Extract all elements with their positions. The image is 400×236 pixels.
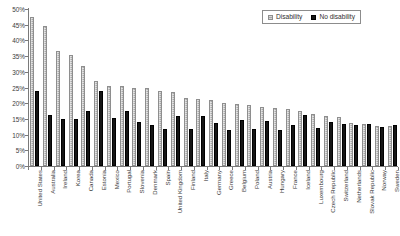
chart-legend: Disability No disability [262,10,361,24]
x-axis-tick-mark [207,167,208,170]
bar-disability [56,51,60,166]
x-axis-label: Norway [381,170,388,191]
bar-no-disability [329,122,333,166]
bar-no-disability [393,125,397,166]
bar-no-disability [163,129,167,166]
bar-disability [171,92,175,166]
x-axis-tick-mark [360,167,361,170]
x-axis-label: Australia [50,170,57,194]
bar-no-disability [380,127,384,166]
bar-no-disability [99,91,103,166]
bar-group [131,9,144,166]
legend-swatch-solid-icon [311,15,316,20]
x-axis-label: Netherlands [356,170,363,203]
x-axis-tick-mark [283,167,284,170]
bar-no-disability [367,124,371,166]
bar-no-disability [214,123,218,166]
x-axis-tick-mark [245,167,246,170]
bar-no-disability [189,129,193,166]
bar-series-group [28,9,398,166]
bar-disability [158,91,162,166]
x-axis-label: Czech Republic [330,170,337,213]
bar-disability [132,88,136,167]
x-axis-label: Iceland [305,170,312,190]
x-axis-tick-mark [181,167,182,170]
bar-group [272,9,285,166]
bar-disability [388,126,392,166]
bar-group [246,9,259,166]
bar-disability [362,124,366,166]
x-axis-label: Spain [165,170,172,186]
x-axis-tick-mark [398,167,399,170]
x-axis-label: Germany [216,170,223,195]
bar-no-disability [112,118,116,166]
chart-container: 0%5%10%15%20%25%30%35%40%45%50% United S… [0,0,400,236]
bar-disability [222,103,226,166]
x-axis-label: Mexico [114,170,121,189]
bar-group [119,9,132,166]
bar-no-disability [176,116,180,166]
bar-group [93,9,106,166]
bar-disability [69,55,73,166]
x-axis-labels: United StatesAustraliaIrelandKoreaCanada… [28,170,398,236]
x-axis-tick-mark [232,167,233,170]
bar-disability [94,81,98,166]
bar-disability [209,100,213,166]
bar-no-disability [227,130,231,166]
bar-no-disability [252,129,256,166]
x-axis-tick-mark [41,167,42,170]
x-axis-label: Luxembourg [318,170,325,204]
bar-no-disability [86,111,90,166]
bar-no-disability [354,125,358,166]
bar-no-disability [61,119,65,166]
bar-no-disability [137,122,141,166]
bar-group [336,9,349,166]
x-axis-tick-mark [334,167,335,170]
bar-no-disability [291,125,295,166]
bar-no-disability [74,119,78,166]
x-axis-label: Portugal [126,170,133,193]
bar-no-disability [342,124,346,166]
x-axis-label: Poland [254,170,261,189]
x-axis-tick-mark [92,167,93,170]
bar-group [144,9,157,166]
x-axis-tick-mark [28,167,29,170]
legend-label-no-disability: No disability [319,13,355,21]
bar-group [29,9,42,166]
x-axis-label: Finland [190,170,197,190]
bar-disability [375,126,379,167]
bar-no-disability [278,130,282,166]
bar-group [183,9,196,166]
x-axis-tick-mark [219,167,220,170]
x-axis-tick-mark [117,167,118,170]
x-axis-label: Austria [267,170,274,189]
bar-disability [196,99,200,166]
bar-disability [273,108,277,166]
x-axis-tick-mark [79,167,80,170]
bar-no-disability [125,111,129,166]
x-axis-label: Greece [228,170,235,190]
x-axis-label: United States [37,170,44,207]
x-axis-tick-mark [156,167,157,170]
bar-disability [247,105,251,166]
bar-disability [324,116,328,166]
x-axis-label: Denmark [152,170,159,195]
bar-no-disability [240,120,244,166]
bar-group [208,9,221,166]
y-axis: 0%5%10%15%20%25%30%35%40%45%50% [0,0,28,236]
bar-group [170,9,183,166]
bar-disability [107,86,111,166]
bar-group [259,9,272,166]
x-axis-tick-mark [194,167,195,170]
bar-group [68,9,81,166]
bar-group [157,9,170,166]
x-axis-label: Slovak Republic [369,170,376,214]
x-axis-label: Switzerland [343,170,350,202]
bar-disability [120,86,124,166]
bar-group [361,9,374,166]
bar-disability [337,117,341,166]
x-axis-tick-mark [143,167,144,170]
bar-disability [260,107,264,166]
bar-group [195,9,208,166]
x-axis-label: Italy [203,170,210,181]
